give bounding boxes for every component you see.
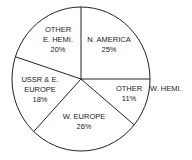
label-other-e-hemi-name-2: E. HEMI. <box>36 35 80 45</box>
label-other-w-hemi-value: 11% <box>112 94 146 104</box>
label-ussr-e-europe: USSR & E. EUROPE 18% <box>14 75 66 105</box>
label-other-w-hemi: OTHER 11% <box>112 84 146 104</box>
label-ussr-name: USSR & E. <box>14 75 66 85</box>
label-ussr-name-2: EUROPE <box>14 85 66 95</box>
label-n-america-name: N. AMERICA <box>84 35 134 45</box>
label-n-america-value: 25% <box>84 45 134 55</box>
label-other-e-hemi-name: OTHER <box>36 25 80 35</box>
label-w-hemi-outside-text: W. HEMI. <box>150 84 182 94</box>
label-w-europe-value: 26% <box>58 122 110 132</box>
label-other-e-hemi-value: 20% <box>36 45 80 55</box>
label-other-w-hemi-name: OTHER <box>112 84 146 94</box>
label-w-europe-name: W. EUROPE <box>58 112 110 122</box>
label-n-america: N. AMERICA 25% <box>84 35 134 55</box>
label-ussr-value: 18% <box>14 95 66 105</box>
label-other-e-hemi: OTHER E. HEMI. 20% <box>36 25 80 55</box>
label-w-europe: W. EUROPE 26% <box>58 112 110 132</box>
label-w-hemi-outside: W. HEMI. <box>150 84 182 94</box>
